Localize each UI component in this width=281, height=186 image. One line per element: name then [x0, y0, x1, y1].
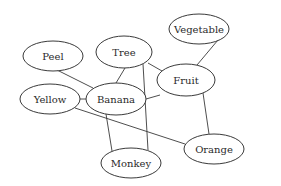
node-peel: Peel	[23, 41, 83, 71]
node-label: Banana	[97, 94, 135, 105]
edge-banana-fruit	[146, 95, 160, 99]
node-orange: Orange	[184, 134, 244, 164]
node-label: Peel	[42, 51, 63, 62]
node-label: Yellow	[33, 94, 67, 105]
node-label: Vegetable	[173, 24, 224, 35]
node-yellow: Yellow	[20, 84, 80, 114]
node-monkey: Monkey	[101, 148, 161, 178]
edge-tree-fruit	[148, 63, 162, 71]
concept-graph: PeelTreeVegetableFruitYellowBananaMonkey…	[0, 0, 281, 186]
node-label: Monkey	[111, 158, 152, 169]
node-banana: Banana	[86, 83, 146, 115]
node-fruit: Fruit	[157, 64, 215, 96]
edge-fruit-orange	[203, 93, 209, 134]
nodes-layer: PeelTreeVegetableFruitYellowBananaMonkey…	[20, 14, 244, 178]
edge-tree-banana	[116, 68, 125, 83]
node-vegetable: Vegetable	[169, 14, 229, 44]
node-label: Orange	[195, 144, 233, 155]
node-label: Tree	[112, 47, 135, 58]
node-tree: Tree	[96, 36, 152, 68]
node-label: Fruit	[173, 75, 198, 86]
edge-tree-monkey	[143, 64, 148, 150]
